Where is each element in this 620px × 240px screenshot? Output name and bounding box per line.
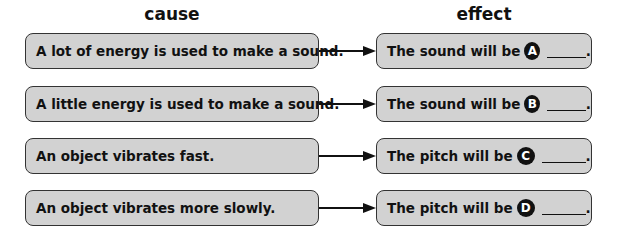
period: . <box>586 43 591 59</box>
arrow-icon <box>319 45 376 57</box>
effect-text: The sound will be <box>387 43 520 59</box>
cause-text: An object vibrates fast. <box>36 148 214 164</box>
effect-header: effect <box>376 4 592 24</box>
cause-box: A little energy is used to make a sound. <box>25 86 319 122</box>
answer-blank[interactable] <box>542 150 586 163</box>
effect-box: The pitch will be C . <box>376 138 592 174</box>
cause-text: An object vibrates more slowly. <box>36 200 275 216</box>
answer-blank[interactable] <box>547 98 586 111</box>
period: . <box>586 148 591 164</box>
effect-box: The pitch will be D . <box>376 190 592 226</box>
letter-d-icon: D <box>517 199 535 217</box>
letter-a-icon: A <box>524 42 540 60</box>
cause-header: cause <box>25 4 319 24</box>
cause-box: An object vibrates fast. <box>25 138 319 174</box>
period: . <box>586 200 591 216</box>
arrow-icon <box>319 150 376 162</box>
letter-c-icon: C <box>517 147 535 165</box>
effect-text: The sound will be <box>387 96 520 112</box>
answer-blank[interactable] <box>547 45 586 58</box>
cause-text: A little energy is used to make a sound. <box>36 96 339 112</box>
period: . <box>586 96 591 112</box>
cause-box: An object vibrates more slowly. <box>25 190 319 226</box>
letter-b-icon: B <box>524 95 540 113</box>
cause-box: A lot of energy is used to make a sound. <box>25 33 319 69</box>
answer-blank[interactable] <box>542 202 586 215</box>
arrow-icon <box>319 202 376 214</box>
arrow-icon <box>319 98 376 110</box>
effect-box: The sound will be B . <box>376 86 592 122</box>
effect-text: The pitch will be <box>387 200 513 216</box>
effect-text: The pitch will be <box>387 148 513 164</box>
cause-text: A lot of energy is used to make a sound. <box>36 43 344 59</box>
effect-box: The sound will be A . <box>376 33 592 69</box>
